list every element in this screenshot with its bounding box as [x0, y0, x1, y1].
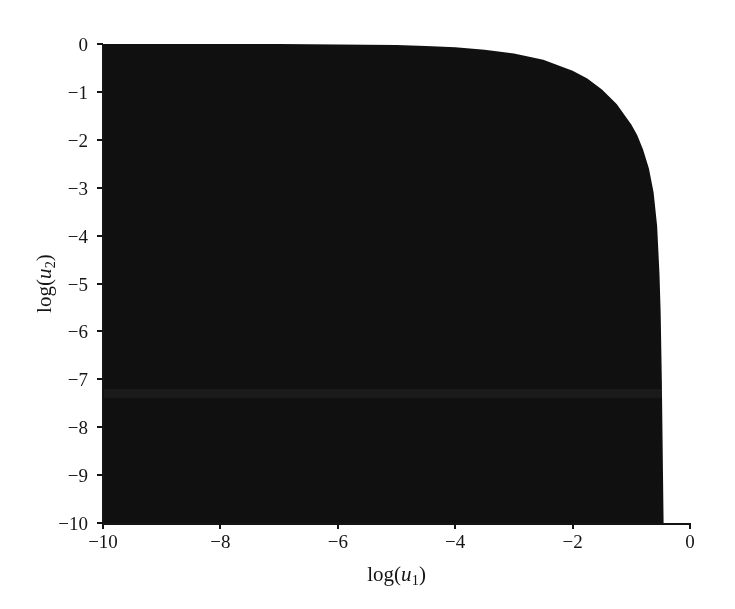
x-axis-line [103, 523, 691, 525]
x-axis-title-suffix: ) [419, 562, 426, 586]
x-axis-title: log(u1) [103, 562, 690, 589]
y-tick-mark [97, 139, 103, 141]
x-tick-mark [572, 523, 574, 529]
y-axis-title-subscript: 2 [42, 261, 58, 268]
x-tick-mark [689, 523, 691, 529]
x-tick-mark [337, 523, 339, 529]
x-tick-mark [219, 523, 221, 529]
y-tick-mark [97, 330, 103, 332]
y-axis-title-variable: u [32, 269, 56, 280]
x-tick-label: −8 [210, 532, 230, 551]
x-tick-label: −6 [328, 532, 348, 551]
y-axis-title-suffix: ) [32, 254, 56, 261]
y-tick-mark [97, 426, 103, 428]
y-tick-mark [97, 474, 103, 476]
y-axis-title: log(u2) [32, 44, 58, 523]
figure-canvas: −10−8−6−4−20 0−1−2−3−4−5−6−7−8−9−10 log(… [0, 0, 735, 609]
y-tick-mark [97, 522, 103, 524]
y-tick-mark [97, 378, 103, 380]
plot-area [103, 44, 690, 523]
y-tick-mark [97, 235, 103, 237]
x-tick-label: −10 [88, 532, 118, 551]
x-axis-title-prefix: log( [367, 562, 401, 586]
y-axis-title-prefix: log( [32, 279, 56, 313]
shaded-region [103, 44, 690, 523]
y-tick-mark [97, 43, 103, 45]
y-tick-mark [97, 187, 103, 189]
region-fill-path [103, 44, 664, 523]
x-tick-label: −4 [445, 532, 465, 551]
x-axis-title-subscript: 1 [411, 572, 418, 588]
x-tick-label: 0 [685, 532, 695, 551]
x-tick-mark [454, 523, 456, 529]
y-tick-mark [97, 283, 103, 285]
x-tick-label: −2 [562, 532, 582, 551]
x-axis-title-variable: u [401, 562, 412, 586]
y-tick-mark [97, 91, 103, 93]
